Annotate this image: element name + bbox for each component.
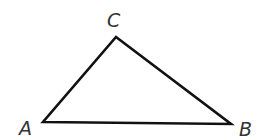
triangle-diagram: A B C xyxy=(0,0,257,140)
vertex-label-b: B xyxy=(239,118,252,140)
vertex-label-c: C xyxy=(107,9,121,31)
vertex-label-a: A xyxy=(17,117,32,139)
triangle-abc xyxy=(43,37,231,124)
